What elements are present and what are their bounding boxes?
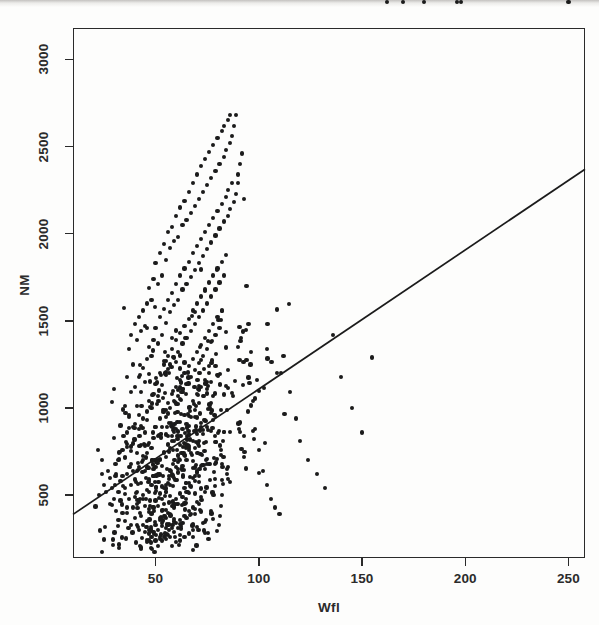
scan-artifact [0,0,599,7]
y-axis-label: NM [17,274,32,296]
y-tick-label: 1000 [36,393,51,424]
data-point [459,0,463,4]
x-tick-mark [155,558,157,566]
y-tick-label: 500 [36,484,51,507]
y-tick-mark [65,146,73,148]
x-axis-label: Wfl [318,600,340,615]
y-tick-label: 2500 [36,131,51,162]
y-tick-label: 1500 [36,305,51,336]
x-tick-label: 50 [148,571,163,586]
data-point [566,0,570,4]
data-point [455,0,459,4]
y-tick-label: 2000 [36,218,51,249]
data-point [385,0,389,4]
data-point [401,0,405,4]
y-tick-mark [65,59,73,61]
y-tick-mark [65,407,73,409]
figure-page: 5010015020025050010001500200025003000 Wf… [0,0,599,625]
y-tick-mark [65,494,73,496]
plot-frame [73,28,585,558]
x-tick-mark [361,558,363,566]
x-tick-label: 150 [350,571,373,586]
y-tick-mark [65,233,73,235]
x-tick-mark [465,558,467,566]
x-tick-mark [258,558,260,566]
y-tick-label: 3000 [36,44,51,75]
y-tick-mark [65,320,73,322]
x-tick-label: 200 [454,571,477,586]
x-tick-label: 100 [247,571,270,586]
x-tick-label: 250 [557,571,580,586]
x-tick-mark [568,558,570,566]
data-point [422,0,426,4]
